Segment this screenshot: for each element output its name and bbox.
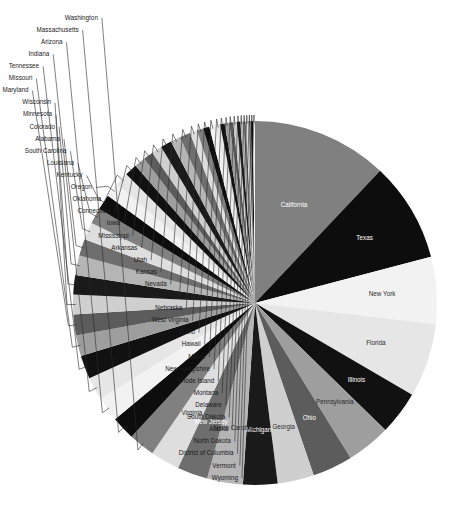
pie-slice-label: Nevada: [145, 280, 167, 287]
pie-slice-label: New Mexico: [141, 292, 176, 299]
pie-slice-label: Idaho: [179, 328, 195, 335]
pie-chart-figure: CaliforniaTexasNew YorkFloridaIllinoisPe…: [0, 0, 469, 529]
pie-slice-label: Massachusetts: [37, 26, 79, 33]
pie-slice-label: District of Columbia: [179, 449, 234, 456]
pie-slice-label: Ohio: [303, 414, 317, 421]
pie-slice-label: Kansas: [136, 268, 157, 275]
pie-slice-label: Kentucky: [57, 171, 84, 179]
pie-slice-label: California: [281, 201, 308, 208]
pie-slice-label: Vermont: [212, 462, 236, 469]
pie-slice-label: Rhode Island: [177, 377, 215, 384]
pie-slice-label: Utah: [134, 256, 148, 263]
pie-slice-label: Hawaii: [182, 340, 201, 347]
pie-slice-label: New Hampshire: [165, 365, 210, 373]
pie-slice-label: Louisiana: [47, 159, 74, 166]
pie-slice-label: Iowa: [107, 219, 121, 226]
pie-slice-label: Wyoming: [212, 474, 239, 482]
pie-chart-canvas: CaliforniaTexasNew YorkFloridaIllinoisPe…: [0, 0, 469, 529]
pie-slice-label: Mississippi: [98, 232, 128, 240]
leader-line: [55, 103, 76, 305]
pie-slice-label: Alaska: [209, 425, 228, 432]
pie-slice-label: Colorado: [30, 123, 56, 130]
pie-slice-label: Minnesota: [23, 110, 53, 117]
pie-slice-label: Montana: [194, 389, 219, 396]
pie-slice-label: Washington: [65, 14, 99, 22]
pie-slice-label: Nebraska: [155, 304, 182, 311]
pie-slice-label: Pennsylvania: [316, 398, 354, 406]
pie-slice-label: Florida: [366, 339, 386, 346]
pie-slice-label: West Virginia: [152, 316, 189, 324]
pie-slice-label: Arizona: [41, 38, 63, 45]
pie-slice-label: North Dakota: [194, 437, 232, 444]
pie-slice-label: Indiana: [29, 50, 50, 57]
pie-slice-label: Arkansas: [111, 244, 137, 251]
pie-slice-label: Missouri: [9, 74, 32, 81]
pie-slice-label: New York: [369, 290, 396, 297]
pie-slice-label: Oklahoma: [72, 195, 101, 202]
pie-slice-label: Tennessee: [9, 62, 40, 69]
pie-slice-label: Texas: [356, 234, 372, 241]
pie-slice-label: Georgia: [272, 423, 295, 431]
pie-slice-label: Connecticut: [78, 207, 112, 214]
pie-slice-label: Oregon: [71, 183, 93, 191]
pie-slice-label: Wisconsin: [22, 98, 51, 105]
pie-slice-label: Maine: [188, 353, 206, 360]
pie-slice-label: Alabama: [35, 135, 60, 142]
pie-slice-label: South Dakota: [187, 413, 226, 420]
pie-slice-label: South Carolina: [25, 147, 67, 154]
pie-slice-label: Delaware: [195, 401, 222, 408]
pie-slice-label: Illinois: [348, 376, 366, 383]
pie-slice-label: Maryland: [2, 86, 28, 94]
